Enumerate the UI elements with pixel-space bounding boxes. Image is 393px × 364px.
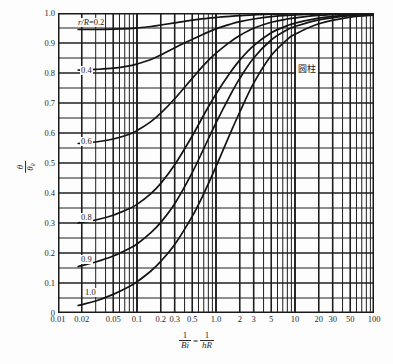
x-tick-label: 0.3 [169,315,180,324]
x-axis-right-numerator: 1 [200,331,214,340]
y-axis-denominator: θ₀ [26,161,36,173]
x-tick-label: 0.1 [132,315,143,324]
data-curves [78,13,374,305]
x-tick-label: 0.01 [51,315,66,324]
chart-page: 1.00.90.80.70.60.50.40.30.20.10 θ θ₀ r/R… [0,0,393,364]
curve-r-r-0-9 [78,14,374,266]
y-axis-title: θ θ₀ [13,149,39,185]
x-tick-label: 20 [315,315,324,324]
y-tick-label: 0.6 [44,129,55,138]
curve-label-r-r-1-0: 1.0 [84,288,97,297]
x-tick-label: 100 [368,315,381,324]
curve-label-variable: r/R [78,17,89,27]
x-tick-label: 0.05 [106,315,121,324]
x-tick-label: 2 [238,315,242,324]
y-tick-label: 0.9 [44,39,55,48]
plot-area: r/R=0.20.40.60.80.91.0 [58,13,374,313]
x-tick-label: 0.5 [187,315,198,324]
x-axis-equals: = [191,336,200,346]
x-axis-fraction-right: 1 hR [200,331,214,351]
shape-annotation-label: 圆柱 [296,61,318,76]
curve-r-r-1-0 [78,15,374,305]
curve-label-r-r-0-6: 0.6 [80,137,93,146]
x-tick-label: 50 [346,315,355,324]
x-tick-label: 30 [328,315,337,324]
y-axis-numerator: θ [16,161,25,173]
curve-label-r-r-0-2: r/R=0.2 [77,18,105,27]
y-tick-label: 0.2 [44,249,55,258]
y-tick-label: 0.5 [44,159,55,168]
x-tick-label: 10 [291,315,300,324]
y-tick-label: 0.3 [44,219,55,228]
x-axis-left-denominator: Bi [179,340,191,350]
y-tick-label: 0.7 [44,99,55,108]
y-tick-label: 1.0 [44,9,55,18]
x-axis-right-denominator: hR [200,340,214,350]
curve-label-r-r-0-9: 0.9 [80,255,93,264]
chart-svg [58,13,374,313]
y-tick-label: 0.4 [44,189,55,198]
y-tick-label: 0.1 [44,279,55,288]
x-axis-ticks: 0.010.020.050.10.20.30.51.02351020305010… [58,315,378,329]
curve-label-r-r-0-8: 0.8 [80,213,93,222]
x-tick-label: 1.0 [211,315,222,324]
y-tick-label: 0.8 [44,69,55,78]
curve-label-value: =0.2 [89,17,104,27]
x-tick-label: 3 [252,315,256,324]
y-axis-fraction: θ θ₀ [16,161,36,173]
x-axis-left-numerator: 1 [179,331,191,340]
x-tick-label: 0.02 [74,315,89,324]
x-axis-title: 1 Bi = 1 hR [0,331,393,351]
curve-label-r-r-0-4: 0.4 [80,66,93,75]
x-axis-fraction-left: 1 Bi [179,331,191,351]
x-tick-label: 5 [269,315,273,324]
x-tick-label: 0.2 [155,315,166,324]
